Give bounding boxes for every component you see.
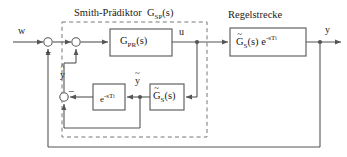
plant-group-title: Regelstrecke	[228, 10, 282, 21]
block-diagram-canvas: Smith-Prädiktor GSP(s) Regelstrecke GPR(…	[0, 0, 347, 157]
signal-label-output: y	[325, 25, 330, 35]
outer-sum-minus-sign: −	[45, 47, 51, 58]
model-block-label: ~GS(s)	[153, 91, 176, 104]
outer-sum-junction	[44, 38, 52, 46]
signal-label-model-output-hat: ^y	[60, 70, 65, 80]
inner-sum-junction	[72, 38, 80, 46]
diagram-svg	[0, 0, 347, 157]
delay-block-label: e-sTt	[100, 93, 115, 104]
signal-label-reference: w	[18, 26, 25, 36]
plant-block-label: ~GS(s) e-sTt	[236, 35, 277, 50]
model-error-sum-minus-sign: −	[68, 86, 74, 97]
controller-block-label: GPR(s)	[120, 36, 147, 49]
model-error-sum-junction	[60, 93, 68, 101]
smith-predictor-title: Smith-Prädiktor GSP(s)	[74, 8, 173, 21]
signal-label-control: u	[179, 27, 184, 37]
signal-label-model-output-tilde: ~y	[135, 76, 140, 86]
